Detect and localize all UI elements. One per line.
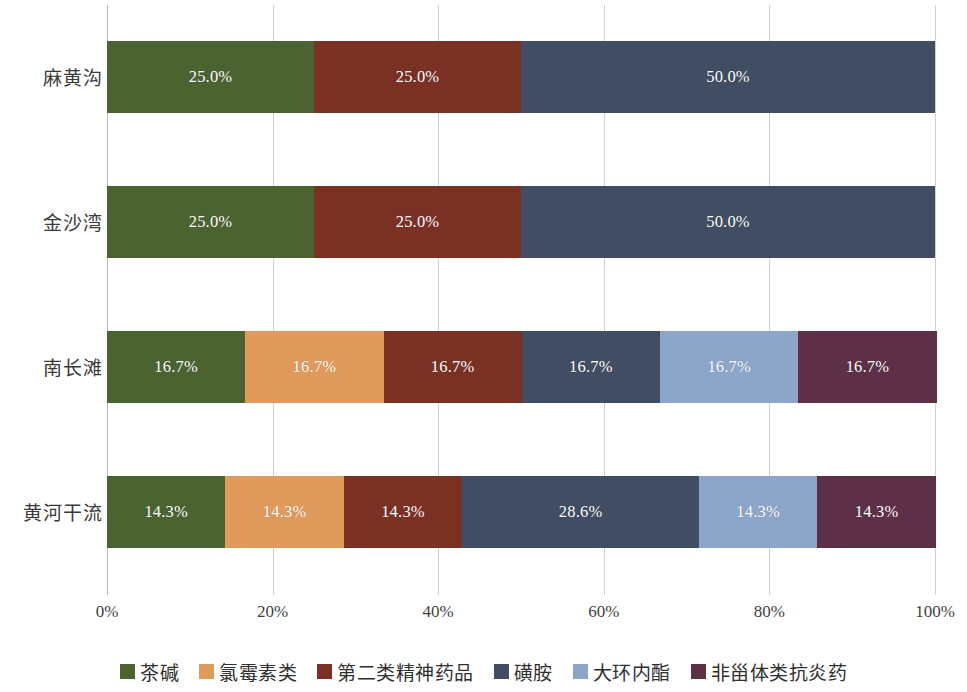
legend-item-label: 磺胺 <box>514 658 553 685</box>
legend-item-label: 茶碱 <box>140 658 179 685</box>
y-axis-label-1: 金沙湾 <box>3 208 103 235</box>
legend-swatch-icon <box>199 664 214 679</box>
bar-segment-value-label: 25.0% <box>396 67 440 87</box>
bar-segment-value-label: 14.3% <box>736 502 780 522</box>
bar-segment-value-label: 14.3% <box>144 502 188 522</box>
bar-segment: 25.0% <box>314 186 521 258</box>
bar-segment: 14.3% <box>225 476 343 548</box>
bar-segment: 50.0% <box>521 41 935 113</box>
legend-swatch-icon <box>573 664 588 679</box>
legend-item-label: 第二类精神药品 <box>337 658 474 685</box>
y-axis-label-0: 麻黄沟 <box>3 63 103 90</box>
bar-segment-value-label: 25.0% <box>189 212 233 232</box>
bar-segment-value-label: 14.3% <box>381 502 425 522</box>
bar-segment: 28.6% <box>462 476 699 548</box>
bar-segment-value-label: 16.7% <box>569 357 613 377</box>
legend-swatch-icon <box>317 664 332 679</box>
table-row: 25.0%25.0%50.0% <box>107 186 935 258</box>
table-row: 16.7%16.7%16.7%16.7%16.7%16.7% <box>107 331 935 403</box>
legend-item-label: 氯霉素类 <box>219 658 297 685</box>
legend-item[interactable]: 第二类精神药品 <box>317 658 474 685</box>
bar-segment: 14.3% <box>344 476 462 548</box>
bar-segment: 25.0% <box>314 41 521 113</box>
bar-segment-value-label: 28.6% <box>559 502 603 522</box>
bar-segment: 16.7% <box>384 331 522 403</box>
bar-segment: 14.3% <box>817 476 935 548</box>
bar-segment: 14.3% <box>107 476 225 548</box>
legend-item[interactable]: 茶碱 <box>120 658 179 685</box>
x-axis-tick-label: 80% <box>754 602 785 622</box>
plot-area: 25.0%25.0%50.0% 25.0%25.0%50.0% 16.7%16.… <box>107 5 935 595</box>
bar-segment-value-label: 16.7% <box>431 357 475 377</box>
legend-item-label: 大环内酯 <box>593 658 671 685</box>
bar-segment-value-label: 16.7% <box>154 357 198 377</box>
table-row: 25.0%25.0%50.0% <box>107 41 935 113</box>
bar-segment-value-label: 16.7% <box>293 357 337 377</box>
legend-item-label: 非甾体类抗炎药 <box>711 658 848 685</box>
x-axis-tick-label: 100% <box>915 602 955 622</box>
legend-swatch-icon <box>691 664 706 679</box>
bar-segment-value-label: 25.0% <box>189 67 233 87</box>
bar-segment: 25.0% <box>107 186 314 258</box>
y-axis-label-3: 黄河干流 <box>3 498 103 525</box>
bar-segment: 16.7% <box>245 331 383 403</box>
bar-segment: 16.7% <box>522 331 660 403</box>
legend-swatch-icon <box>494 664 509 679</box>
bar-segment-value-label: 14.3% <box>855 502 899 522</box>
bar-segment: 16.7% <box>798 331 936 403</box>
x-axis-tick-label: 40% <box>423 602 454 622</box>
bar-segment-value-label: 50.0% <box>706 212 750 232</box>
bar-segment-value-label: 16.7% <box>846 357 890 377</box>
legend-item[interactable]: 磺胺 <box>494 658 553 685</box>
table-row: 14.3%14.3%14.3%28.6%14.3%14.3% <box>107 476 935 548</box>
legend-item[interactable]: 非甾体类抗炎药 <box>691 658 848 685</box>
legend-swatch-icon <box>120 664 135 679</box>
bar-segment-value-label: 16.7% <box>707 357 751 377</box>
bar-segment-value-label: 14.3% <box>263 502 307 522</box>
legend: 茶碱氯霉素类第二类精神药品磺胺大环内酯非甾体类抗炎药 <box>0 658 967 685</box>
y-axis-labels: 麻黄沟 金沙湾 南长滩 黄河干流 <box>0 5 103 595</box>
x-axis-tick-label: 60% <box>588 602 619 622</box>
legend-item[interactable]: 氯霉素类 <box>199 658 297 685</box>
bar-segment: 14.3% <box>699 476 817 548</box>
y-axis-label-2: 南长滩 <box>3 353 103 380</box>
bar-segment-value-label: 25.0% <box>396 212 440 232</box>
bar-segment-value-label: 50.0% <box>706 67 750 87</box>
bar-segment: 25.0% <box>107 41 314 113</box>
bar-segment: 16.7% <box>107 331 245 403</box>
stacked-bar-chart: 麻黄沟 金沙湾 南长滩 黄河干流 25.0%25.0%50.0% 25.0%25… <box>0 0 967 692</box>
x-axis-tick-labels: 0%20%40%60%80%100% <box>107 602 935 628</box>
x-axis-tick-label: 0% <box>96 602 119 622</box>
bar-segment: 50.0% <box>521 186 935 258</box>
bar-segment: 16.7% <box>660 331 798 403</box>
x-axis-tick-label: 20% <box>257 602 288 622</box>
legend-item[interactable]: 大环内酯 <box>573 658 671 685</box>
